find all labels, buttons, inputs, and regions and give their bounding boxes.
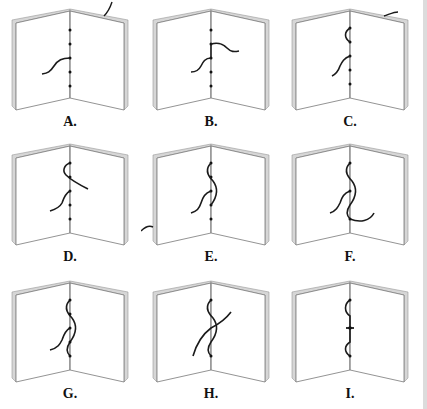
panel-b: B.: [141, 0, 281, 136]
panel-d: D.: [0, 135, 140, 271]
panel-g: G.: [0, 272, 140, 408]
thread-end: [104, 2, 112, 16]
panel-i: I.: [280, 272, 420, 408]
panel-e: E.: [141, 135, 281, 271]
panel-h: H.: [141, 272, 281, 408]
panel-label: H.: [141, 386, 281, 402]
panel-label: E.: [141, 249, 281, 265]
panel-label: G.: [0, 386, 140, 402]
panel-c: C.: [280, 0, 420, 136]
panel-label: A.: [0, 114, 140, 130]
panel-label: D.: [0, 249, 140, 265]
panel-f: F.: [280, 135, 420, 271]
scrollbar[interactable]: [423, 0, 427, 409]
panel-label: B.: [141, 114, 281, 130]
panel-label: I.: [280, 386, 420, 402]
panel-a: A.: [0, 0, 140, 136]
panel-label: C.: [280, 114, 420, 130]
panel-label: F.: [280, 249, 420, 265]
